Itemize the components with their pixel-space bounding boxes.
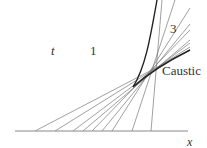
ray-line	[55, 47, 190, 131]
caustic-upper-branch	[133, 0, 157, 87]
label-region-1: 1	[90, 44, 97, 57]
label-region-3: 3	[170, 22, 177, 35]
label-x-axis: x	[187, 136, 192, 148]
label-t: t	[51, 44, 55, 57]
label-caustic: Caustic	[162, 64, 201, 77]
